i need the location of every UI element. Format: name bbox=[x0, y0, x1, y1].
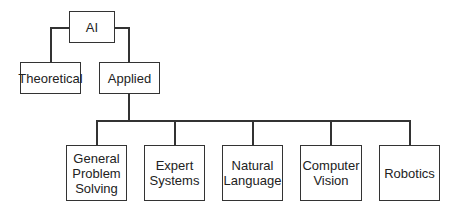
connector-child-3 bbox=[252, 120, 254, 145]
connector-child-4 bbox=[330, 120, 332, 145]
connector-root-right-v bbox=[128, 27, 130, 62]
node-computer-vision: Computer Vision bbox=[300, 145, 362, 201]
node-natural-language: Natural Language bbox=[222, 145, 283, 201]
node-expert-systems: Expert Systems bbox=[144, 145, 205, 201]
connector-root-left-h bbox=[50, 27, 70, 29]
node-theoretical: Theoretical bbox=[20, 62, 81, 94]
node-robotics: Robotics bbox=[379, 145, 440, 201]
node-general-problem-solving: General Problem Solving bbox=[66, 145, 127, 201]
connector-applied-down bbox=[128, 94, 130, 121]
connector-child-1 bbox=[96, 120, 98, 145]
connector-root-left-v bbox=[50, 27, 52, 62]
node-applied: Applied bbox=[99, 62, 160, 94]
node-ai: AI bbox=[69, 11, 115, 43]
connector-root-right-h bbox=[114, 27, 129, 29]
connector-child-2 bbox=[174, 120, 176, 145]
connector-child-5 bbox=[409, 120, 411, 145]
